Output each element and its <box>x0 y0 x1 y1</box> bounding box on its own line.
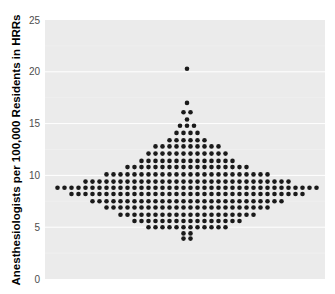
data-point <box>279 179 284 184</box>
data-point <box>153 159 158 164</box>
data-point <box>209 219 214 224</box>
data-point <box>279 192 284 197</box>
data-point <box>174 179 179 184</box>
data-point <box>195 213 200 218</box>
data-point <box>237 186 242 191</box>
data-point <box>300 192 305 197</box>
data-point <box>188 231 193 236</box>
data-point <box>188 219 193 224</box>
data-point <box>83 186 88 191</box>
data-point <box>160 219 165 224</box>
data-point <box>97 199 102 204</box>
data-point <box>265 205 270 210</box>
data-point <box>258 186 263 191</box>
data-point <box>195 219 200 224</box>
data-point <box>244 192 249 197</box>
data-point <box>188 225 193 230</box>
data-point <box>139 159 144 164</box>
data-point <box>69 186 74 191</box>
data-point <box>174 205 179 210</box>
data-point <box>230 219 235 224</box>
data-point <box>188 159 193 164</box>
data-point <box>76 192 81 197</box>
data-point <box>139 199 144 204</box>
y-tick-label: 25 <box>29 15 41 26</box>
data-point <box>265 179 270 184</box>
data-point <box>307 186 312 191</box>
data-point <box>216 205 221 210</box>
data-point <box>181 144 186 149</box>
data-point <box>195 199 200 204</box>
data-point <box>181 172 186 177</box>
data-point <box>237 172 242 177</box>
data-point <box>195 138 200 143</box>
data-point <box>300 186 305 191</box>
y-axis-label: Anesthesiologists per 100,000 Residents … <box>10 14 22 285</box>
data-point <box>223 205 228 210</box>
data-point <box>185 66 190 71</box>
data-point <box>237 213 242 218</box>
data-point <box>195 131 200 136</box>
data-point <box>146 213 151 218</box>
data-point <box>153 213 158 218</box>
data-point <box>139 213 144 218</box>
data-point <box>125 205 130 210</box>
data-point <box>209 186 214 191</box>
data-point <box>188 199 193 204</box>
data-point <box>223 192 228 197</box>
data-point <box>223 199 228 204</box>
data-point <box>272 192 277 197</box>
data-point <box>174 219 179 224</box>
data-point <box>139 179 144 184</box>
data-point <box>104 192 109 197</box>
data-point <box>188 172 193 177</box>
data-point <box>174 225 179 230</box>
data-point <box>202 138 207 143</box>
data-point <box>111 199 116 204</box>
data-point <box>244 172 249 177</box>
data-point <box>139 186 144 191</box>
data-point <box>188 205 193 210</box>
data-point <box>223 225 228 230</box>
data-point <box>223 172 228 177</box>
data-point <box>216 151 221 156</box>
data-point <box>104 186 109 191</box>
data-point <box>118 172 123 177</box>
data-point <box>223 186 228 191</box>
data-point <box>209 172 214 177</box>
data-point <box>174 186 179 191</box>
data-point <box>111 172 116 177</box>
data-point <box>167 219 172 224</box>
data-point <box>209 179 214 184</box>
data-point <box>272 179 277 184</box>
data-point <box>132 192 137 197</box>
data-point <box>265 172 270 177</box>
data-point <box>146 151 151 156</box>
data-point <box>188 179 193 184</box>
data-point <box>139 219 144 224</box>
data-point <box>181 138 186 143</box>
data-point <box>202 151 207 156</box>
data-point <box>167 159 172 164</box>
data-point <box>174 131 179 136</box>
data-point <box>195 205 200 210</box>
data-point <box>160 213 165 218</box>
data-point <box>237 179 242 184</box>
data-point <box>244 165 249 170</box>
data-point <box>90 192 95 197</box>
data-point <box>111 205 116 210</box>
data-point <box>185 117 190 122</box>
data-point <box>202 179 207 184</box>
data-point <box>251 205 256 210</box>
data-point <box>167 144 172 149</box>
data-point <box>244 213 249 218</box>
data-point <box>160 179 165 184</box>
data-point <box>202 172 207 177</box>
data-point <box>258 199 263 204</box>
data-point <box>111 186 116 191</box>
data-point <box>188 151 193 156</box>
data-point <box>167 165 172 170</box>
data-point <box>132 205 137 210</box>
data-point <box>118 179 123 184</box>
data-point <box>244 199 249 204</box>
